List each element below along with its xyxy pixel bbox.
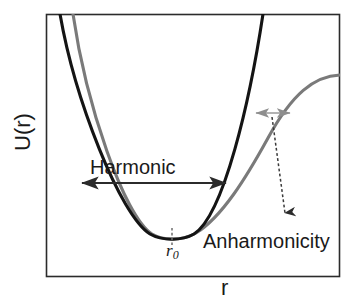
potential-energy-figure: U(r) r Harmonic Anharmonicity r0 xyxy=(0,0,358,308)
y-axis-label: U(r) xyxy=(10,113,36,151)
anharmonicity-annotation-label: Anharmonicity xyxy=(203,231,330,251)
r0-symbol: r xyxy=(166,241,173,260)
plot-canvas xyxy=(0,0,358,308)
y-axis-label-wrapper: U(r) xyxy=(6,112,40,152)
r0-annotation-label: r0 xyxy=(166,242,179,259)
r0-subscript: 0 xyxy=(173,248,179,262)
x-axis-label: r xyxy=(221,277,228,299)
harmonic-annotation-label: Harmonic xyxy=(90,157,176,177)
